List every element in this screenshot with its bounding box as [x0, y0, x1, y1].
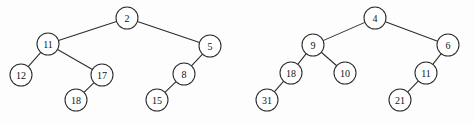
node-label: 8 — [182, 69, 187, 80]
tree-node[interactable]: 12 — [10, 64, 32, 86]
node-label: 9 — [311, 40, 316, 51]
tree-edge — [298, 54, 306, 65]
tree-node[interactable]: 18 — [280, 62, 302, 84]
tree-edge — [385, 22, 437, 41]
node-label: 2 — [125, 13, 130, 24]
tree-node[interactable]: 10 — [334, 62, 356, 84]
tree-edge — [58, 49, 93, 69]
tree-edge — [28, 52, 41, 66]
node-label: 12 — [16, 70, 26, 81]
node-label: 5 — [208, 41, 213, 52]
node-label: 11 — [421, 68, 431, 79]
tree-edge — [84, 83, 94, 93]
node-label: 11 — [43, 39, 53, 50]
tree-edge — [165, 82, 176, 93]
tree-node[interactable]: 9 — [302, 34, 324, 56]
tree-edge — [408, 81, 419, 92]
tree-node[interactable]: 4 — [364, 7, 386, 29]
tree-edge — [137, 22, 199, 43]
node-label: 10 — [340, 68, 350, 79]
tree-node[interactable]: 31 — [256, 89, 278, 111]
tree-node[interactable]: 18 — [65, 89, 87, 111]
tree-node[interactable]: 11 — [37, 33, 59, 55]
tree-edge — [323, 22, 365, 40]
tree-edge — [321, 52, 336, 66]
tree-node[interactable]: 2 — [116, 7, 138, 29]
tree-node[interactable]: 5 — [199, 35, 221, 57]
tree-edge — [58, 21, 116, 40]
tree-node[interactable]: 6 — [437, 34, 459, 56]
tree-node[interactable]: 8 — [173, 63, 195, 85]
node-label: 18 — [286, 68, 296, 79]
tree-edge — [191, 54, 202, 66]
binary-tree-right-edges — [274, 22, 441, 92]
node-label: 4 — [373, 13, 378, 24]
nodes-layer: 21151217818154961810113121 — [10, 7, 459, 111]
tree-node[interactable]: 17 — [91, 64, 113, 86]
tree-node[interactable]: 11 — [415, 62, 437, 84]
node-label: 15 — [152, 95, 162, 106]
tree-node[interactable]: 15 — [146, 89, 168, 111]
tree-edge — [274, 81, 283, 92]
tree-edge — [433, 54, 441, 65]
node-label: 21 — [395, 95, 405, 106]
node-label: 17 — [97, 70, 107, 81]
binary-tree-left-nodes: 2115121781815 — [10, 7, 221, 111]
node-label: 6 — [446, 40, 451, 51]
node-label: 31 — [262, 95, 272, 106]
tree-diagram-canvas: 21151217818154961810113121 — [0, 0, 475, 123]
edges-layer — [28, 21, 441, 92]
tree-node[interactable]: 21 — [389, 89, 411, 111]
node-label: 18 — [71, 95, 81, 106]
binary-trees-figure: 21151217818154961810113121 — [0, 0, 475, 123]
binary-tree-right-nodes: 4961810113121 — [256, 7, 459, 111]
